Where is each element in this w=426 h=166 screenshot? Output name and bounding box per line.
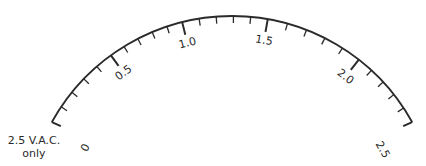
- minor-tick: [398, 108, 404, 112]
- minor-tick: [72, 92, 77, 96]
- scale-arc: [52, 16, 412, 122]
- minor-tick: [250, 17, 251, 24]
- major-tick: [52, 122, 61, 126]
- major-tick: [111, 55, 119, 66]
- minor-tick: [339, 48, 343, 54]
- scale-label: 0.5: [113, 62, 135, 83]
- minor-tick: [199, 19, 200, 26]
- scale-label: 1.5: [254, 32, 273, 48]
- major-tick: [182, 22, 185, 35]
- minor-tick: [378, 82, 383, 87]
- minor-tick: [367, 70, 372, 75]
- scale-label: 1.0: [177, 35, 197, 52]
- minor-tick: [97, 67, 102, 72]
- minor-tick: [124, 47, 128, 53]
- scale-label: 0: [78, 141, 93, 153]
- minor-tick: [304, 30, 307, 37]
- minor-tick: [286, 24, 288, 31]
- major-tick: [403, 122, 412, 126]
- scale-label: 2.0: [335, 66, 357, 87]
- minor-tick: [216, 17, 217, 24]
- major-tick: [351, 60, 359, 70]
- range-note: 2.5 V.A.C. only: [2, 134, 66, 160]
- range-note-line2: only: [2, 147, 66, 160]
- scale-label: 2.5: [373, 139, 393, 161]
- minor-tick: [322, 38, 325, 44]
- minor-tick: [388, 95, 394, 99]
- minor-tick: [84, 79, 89, 84]
- range-note-line1: 2.5 V.A.C.: [2, 134, 66, 147]
- minor-tick: [138, 39, 141, 45]
- major-tick: [266, 19, 268, 32]
- minor-tick: [61, 107, 67, 111]
- minor-tick: [167, 27, 169, 34]
- minor-tick: [152, 32, 155, 38]
